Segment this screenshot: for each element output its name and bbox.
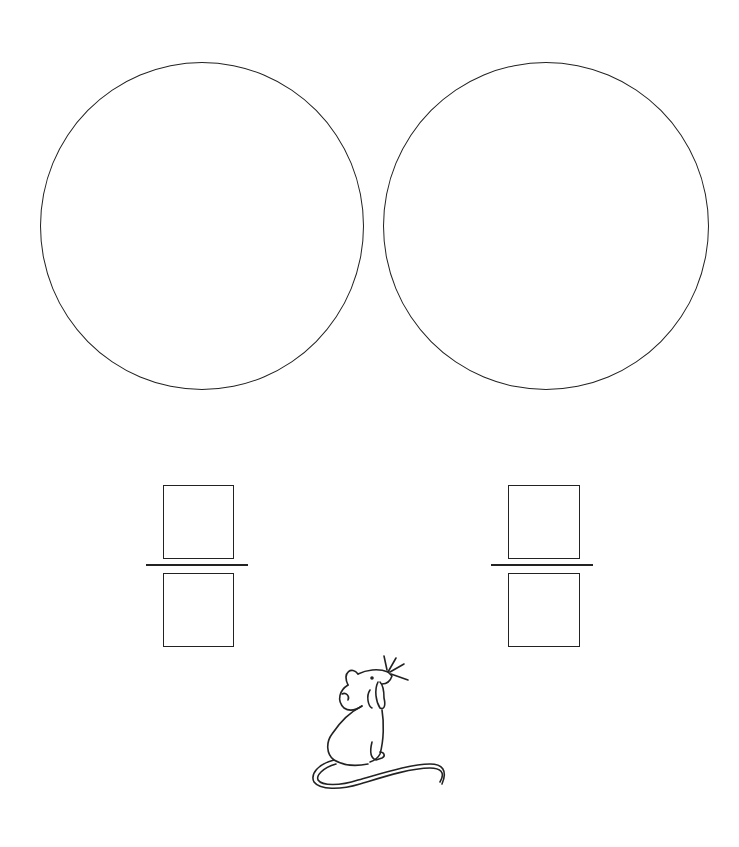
numerator-box-right[interactable] — [508, 485, 580, 559]
denominator-box-right[interactable] — [508, 573, 580, 647]
denominator-box-left[interactable] — [163, 573, 234, 647]
circle-right — [383, 62, 709, 390]
fraction-bar-right — [491, 564, 593, 566]
fraction-bar-left — [146, 564, 248, 566]
mouse-illustration — [300, 650, 460, 800]
numerator-box-left[interactable] — [163, 485, 234, 559]
circle-left — [40, 62, 364, 390]
